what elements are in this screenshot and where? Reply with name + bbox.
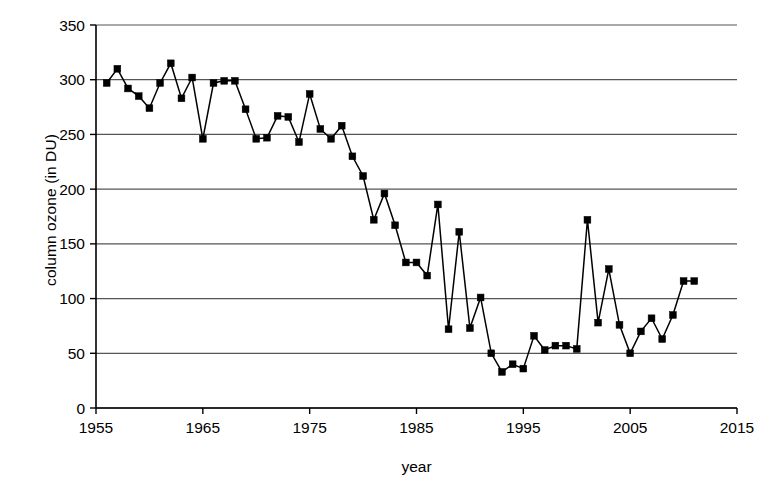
x-tick-label: 1955 xyxy=(79,419,113,436)
data-point-marker xyxy=(477,294,484,301)
data-point-marker xyxy=(125,85,132,92)
data-point-marker xyxy=(317,126,324,133)
data-point-marker xyxy=(103,80,110,87)
data-point-marker xyxy=(456,228,463,235)
data-point-marker xyxy=(392,222,399,229)
y-tick-label: 150 xyxy=(59,235,85,252)
x-tick-label: 2005 xyxy=(613,419,647,436)
data-point-marker xyxy=(381,190,388,197)
data-point-marker xyxy=(360,173,367,180)
y-tick-label: 350 xyxy=(59,17,85,34)
data-point-marker xyxy=(616,321,623,328)
data-markers-group xyxy=(103,60,697,375)
data-point-marker xyxy=(648,315,655,322)
data-point-marker xyxy=(680,278,687,285)
data-point-marker xyxy=(488,350,495,357)
data-point-marker xyxy=(627,350,634,357)
data-point-marker xyxy=(296,139,303,146)
data-point-marker xyxy=(146,105,153,112)
data-point-marker xyxy=(306,91,313,98)
data-point-marker xyxy=(210,80,217,87)
y-tick-label: 50 xyxy=(68,345,86,362)
x-tick-label: 1995 xyxy=(506,419,540,436)
axis-lines-group xyxy=(96,25,737,408)
data-point-marker xyxy=(509,361,516,368)
x-tick-group: 1955196519751985199520052015 xyxy=(79,408,754,436)
x-tick-label: 2015 xyxy=(720,419,754,436)
data-point-marker xyxy=(264,134,271,141)
gridlines-group xyxy=(96,25,737,408)
data-point-marker xyxy=(178,95,185,102)
data-point-marker xyxy=(189,74,196,81)
y-tick-label: 300 xyxy=(59,71,85,88)
data-point-marker xyxy=(573,346,580,353)
data-point-marker xyxy=(402,259,409,266)
data-point-marker xyxy=(221,77,228,84)
data-point-marker xyxy=(605,266,612,273)
data-point-marker xyxy=(167,60,174,67)
y-tick-label: 0 xyxy=(76,400,85,417)
data-point-marker xyxy=(563,342,570,349)
y-tick-label: 100 xyxy=(59,290,85,307)
data-point-marker xyxy=(135,93,142,100)
data-point-marker xyxy=(552,342,559,349)
x-tick-label: 1985 xyxy=(399,419,433,436)
data-point-marker xyxy=(114,65,121,72)
data-point-marker xyxy=(157,80,164,87)
data-point-marker xyxy=(253,135,260,142)
data-point-marker xyxy=(499,368,506,375)
data-point-marker xyxy=(541,347,548,354)
data-point-marker xyxy=(328,135,335,142)
data-point-marker xyxy=(691,278,698,285)
data-point-marker xyxy=(242,106,249,113)
data-point-marker xyxy=(584,216,591,223)
data-point-marker xyxy=(467,325,474,332)
data-point-marker xyxy=(199,135,206,142)
data-point-marker xyxy=(520,365,527,372)
y-tick-group: 050100150200250300350 xyxy=(59,17,96,417)
ozone-chart-figure: column ozone (in DU) year 05010015020025… xyxy=(0,0,777,496)
data-point-marker xyxy=(413,259,420,266)
data-point-marker xyxy=(670,312,677,319)
data-point-marker xyxy=(659,336,666,343)
data-point-marker xyxy=(434,201,441,208)
x-tick-label: 1975 xyxy=(292,419,326,436)
data-point-marker xyxy=(531,332,538,339)
data-point-marker xyxy=(338,122,345,129)
data-point-marker xyxy=(274,112,281,119)
data-point-marker xyxy=(231,77,238,84)
y-tick-label: 200 xyxy=(59,181,85,198)
plot-area: 050100150200250300350 195519651975198519… xyxy=(0,0,777,496)
data-point-marker xyxy=(595,319,602,326)
data-point-marker xyxy=(424,272,431,279)
data-point-marker xyxy=(370,216,377,223)
data-point-marker xyxy=(637,328,644,335)
y-tick-label: 250 xyxy=(59,126,85,143)
x-tick-label: 1965 xyxy=(186,419,220,436)
data-point-marker xyxy=(285,114,292,121)
data-point-marker xyxy=(445,326,452,333)
data-point-marker xyxy=(349,153,356,160)
data-line xyxy=(107,63,695,372)
